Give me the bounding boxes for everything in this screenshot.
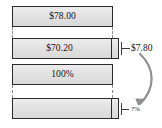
guide-right-upper [112,27,113,38]
bar-sale-price-divider [111,39,112,58]
bar-sale-price-label: $70.20 [13,44,106,54]
guide-left-upper [12,27,13,38]
difference-leader-line [121,48,130,49]
bar-original-price-label: $78.00 [49,12,76,22]
guide-right-lower [112,85,113,98]
bar-original-price: $78.00 [12,6,113,27]
bar-sale-percent [12,98,119,119]
unknown-percent-label: ?% [131,106,140,113]
difference-amount-label: $7.80 [131,44,152,54]
bar-model-diagram: $78.00 $70.20 100% $7.80 ?% [0,0,162,128]
bar-original-percent-label: 100% [51,70,74,80]
bar-sale-price: $70.20 [12,38,119,59]
unknown-percent-leader-line [121,109,129,110]
guide-left-lower [12,85,13,98]
bar-sale-percent-divider [111,99,112,118]
bar-original-percent: 100% [12,64,113,85]
